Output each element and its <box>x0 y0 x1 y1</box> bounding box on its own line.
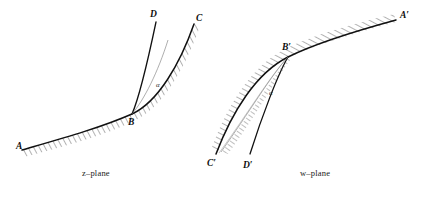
z-plane-hatching <box>0 0 215 213</box>
z-point-label-C: C <box>196 13 203 23</box>
figure-caption <box>0 205 421 213</box>
z-point-label-B: B <box>127 117 134 127</box>
w-point-label-D-prime: D′ <box>242 160 253 170</box>
z-plane-group: A B C D α <box>0 0 215 213</box>
z-angle-label-alpha: α <box>156 81 160 89</box>
w-point-label-B-prime: B′ <box>281 42 291 52</box>
z-point-label-A: A <box>15 141 22 151</box>
w-angle-label-alpha: α <box>269 89 273 97</box>
w-plane-hatching <box>200 0 421 213</box>
w-plane-caption: w–plane <box>300 168 330 178</box>
w-wedge-arc-1 <box>221 57 288 152</box>
w-point-label-C-prime: C′ <box>207 158 216 168</box>
w-point-label-A-prime: A′ <box>399 10 409 20</box>
conformal-mapping-figure: A B C D α A′ B′ C′ D′ α <box>0 0 421 213</box>
w-wedge-arc-2 <box>219 57 288 153</box>
w-plane-group: A′ B′ C′ D′ α <box>200 0 421 213</box>
z-point-label-D: D <box>149 9 157 19</box>
z-plane-caption: z–plane <box>82 168 110 178</box>
